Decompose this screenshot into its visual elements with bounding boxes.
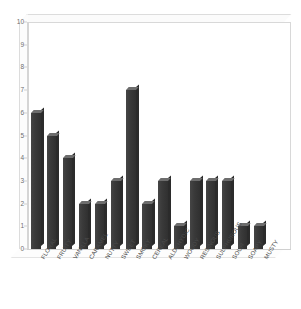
bar-front-face	[174, 226, 184, 249]
bar-side-face	[136, 85, 139, 246]
bar-column[interactable]	[61, 22, 77, 249]
bar-front-face	[95, 204, 105, 249]
y-axis-tick-label: 6	[0, 110, 24, 117]
bar-front-face	[238, 226, 248, 249]
bar-column[interactable]	[124, 22, 140, 249]
bar-smoky[interactable]	[126, 90, 136, 249]
y-axis-tick-label: 10	[0, 19, 24, 26]
bar-side-face	[56, 130, 59, 246]
bar-column[interactable]	[109, 22, 125, 249]
y-axis-tick-label: 2	[0, 200, 24, 207]
bar-sulphurous[interactable]	[206, 181, 216, 249]
bar-fruity[interactable]	[47, 136, 57, 250]
bar-side-face	[168, 175, 171, 246]
y-axis-tick-label: 4	[0, 155, 24, 162]
bar-column[interactable]	[45, 22, 61, 249]
bar-soapy[interactable]	[238, 226, 248, 249]
bar-musty[interactable]	[254, 226, 264, 249]
bar-side-face	[231, 175, 234, 246]
bar-top-face	[79, 201, 91, 204]
bar-vanilla[interactable]	[63, 158, 73, 249]
bar-sour[interactable]	[222, 181, 232, 249]
bar-front-face	[158, 181, 168, 249]
bar-caramel[interactable]	[79, 204, 89, 249]
bar-column[interactable]	[236, 22, 252, 249]
y-axis-tick-label: 5	[0, 132, 24, 139]
y-axis-tick-label: 9	[0, 41, 24, 48]
bar-side-face	[41, 107, 44, 246]
y-axis-tick-label: 0	[0, 246, 24, 253]
bar-front-face	[222, 181, 232, 249]
bar-side-face	[215, 175, 218, 246]
bar-column[interactable]	[93, 22, 109, 249]
bar-woody[interactable]	[174, 226, 184, 249]
bar-side-face	[88, 198, 91, 246]
bar-chart: 012345678910 FLORALFRUITYVANILLACARAMELN…	[0, 0, 301, 309]
bar-column[interactable]	[252, 22, 268, 249]
bar-side-face	[104, 198, 107, 246]
bar-aldehydic[interactable]	[158, 181, 168, 249]
y-axis-tick-label: 3	[0, 178, 24, 185]
bar-top-face	[47, 133, 59, 136]
bar-front-face	[126, 90, 136, 249]
bar-front-face	[31, 113, 41, 249]
bar-front-face	[63, 158, 73, 249]
bar-front-face	[142, 204, 152, 249]
bar-column[interactable]	[188, 22, 204, 249]
y-axis-ticks: 012345678910	[0, 0, 24, 309]
bar-front-face	[254, 226, 264, 249]
bar-top-face	[95, 201, 107, 204]
bar-front-face	[47, 136, 57, 250]
bar-front-face	[79, 204, 89, 249]
bar-front-face	[206, 181, 216, 249]
bar-front-face	[111, 181, 121, 249]
y-axis-tick-label: 1	[0, 223, 24, 230]
bar-top-face	[111, 178, 123, 181]
bar-column[interactable]	[220, 22, 236, 249]
bar-nutty[interactable]	[95, 204, 105, 249]
y-axis-tick-label: 8	[0, 64, 24, 71]
y-axis-tick-label: 7	[0, 87, 24, 94]
bar-side-face	[200, 175, 203, 246]
bar-cereal[interactable]	[142, 204, 152, 249]
bar-front-face	[190, 181, 200, 249]
bar-side-face	[120, 175, 123, 246]
bar-resinous[interactable]	[190, 181, 200, 249]
bar-column[interactable]	[140, 22, 156, 249]
plot-area	[27, 22, 291, 249]
bar-column[interactable]	[77, 22, 93, 249]
plot-frame-floor-face	[11, 249, 283, 258]
bar-sweet[interactable]	[111, 181, 121, 249]
bar-column[interactable]	[172, 22, 188, 249]
bar-column[interactable]	[29, 22, 45, 249]
bar-side-face	[152, 198, 155, 246]
bar-floral[interactable]	[31, 113, 41, 249]
bar-column[interactable]	[156, 22, 172, 249]
bar-column[interactable]	[204, 22, 220, 249]
bar-side-face	[72, 153, 75, 246]
